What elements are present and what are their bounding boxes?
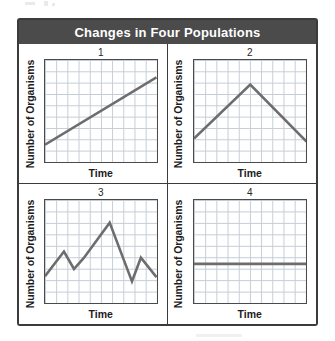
panel-number-2: 2 xyxy=(190,46,311,59)
plot-area-3 xyxy=(44,199,158,304)
plot-area-2 xyxy=(193,59,308,163)
y-axis-label-text: Number of Organisms xyxy=(173,200,185,308)
population-changes-figure: Changes in Four Populations Number of Or… xyxy=(17,18,318,326)
scan-artifact xyxy=(52,3,55,6)
figure-title: Changes in Four Populations xyxy=(75,25,261,40)
figure-title-bar: Changes in Four Populations xyxy=(19,20,316,44)
x-axis-label-3: Time xyxy=(44,307,158,321)
data-line-svg-1 xyxy=(45,60,157,162)
graph-panel-4: Number of Organisms 4 Time xyxy=(168,184,317,324)
panel-number-1: 1 xyxy=(41,46,161,59)
plot-area-4 xyxy=(193,199,308,304)
panel-number-4: 4 xyxy=(190,186,311,199)
graph-panel-3: Number of Organisms 3 Time xyxy=(19,184,168,324)
data-line-1 xyxy=(45,77,157,144)
graph-panel-2: Number of Organisms 2 Time xyxy=(168,44,317,184)
panel-grid: Number of Organisms 1 Time Number of Org… xyxy=(19,44,316,324)
graph-panel-1: Number of Organisms 1 Time xyxy=(19,44,168,184)
scan-artifact xyxy=(25,2,35,5)
y-axis-label-text: Number of Organisms xyxy=(24,59,36,167)
data-line-svg-4 xyxy=(194,200,307,303)
panel-number-3: 3 xyxy=(41,186,161,199)
scan-artifact xyxy=(44,1,48,6)
x-axis-label-1: Time xyxy=(44,166,158,180)
data-line-3 xyxy=(45,223,157,282)
plot-area-1 xyxy=(44,59,158,163)
scan-artifact xyxy=(196,334,242,337)
data-line-svg-2 xyxy=(194,60,307,162)
x-axis-label-4: Time xyxy=(193,307,308,321)
y-axis-label-text: Number of Organisms xyxy=(173,59,185,167)
y-axis-label-text: Number of Organisms xyxy=(24,200,36,308)
data-line-2 xyxy=(194,84,307,141)
y-axis-label-2: Number of Organisms xyxy=(168,44,190,183)
y-axis-label-3: Number of Organisms xyxy=(19,184,41,324)
data-line-svg-3 xyxy=(45,200,157,303)
x-axis-label-2: Time xyxy=(193,166,308,180)
y-axis-label-1: Number of Organisms xyxy=(19,44,41,183)
y-axis-label-4: Number of Organisms xyxy=(168,184,190,324)
